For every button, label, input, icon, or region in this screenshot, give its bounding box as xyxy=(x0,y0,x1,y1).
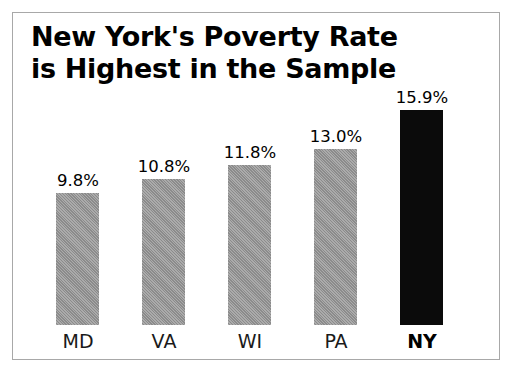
category-label-md: MD xyxy=(35,330,121,352)
bar-value-label-va: 10.8% xyxy=(121,157,207,176)
chart-frame: New York's Poverty Rate is Highest in th… xyxy=(12,12,500,360)
bar-group-pa: 13.0%PA xyxy=(293,149,379,325)
bar-value-label-pa: 13.0% xyxy=(293,127,379,146)
category-label-va: VA xyxy=(121,330,207,352)
bar-value-label-ny: 15.9% xyxy=(379,88,465,107)
bar-wi[interactable] xyxy=(228,165,271,325)
bar-chart-plot-area: 9.8%MD10.8%VA11.8%WI13.0%PA15.9%NY xyxy=(13,13,499,358)
bar-pa[interactable] xyxy=(314,149,357,325)
bar-ny[interactable] xyxy=(400,110,443,325)
bar-value-label-md: 9.8% xyxy=(35,171,121,190)
bar-group-md: 9.8%MD xyxy=(35,193,121,325)
category-label-wi: WI xyxy=(207,330,293,352)
category-label-pa: PA xyxy=(293,330,379,352)
bar-group-va: 10.8%VA xyxy=(121,179,207,325)
bar-md[interactable] xyxy=(56,193,99,325)
bar-va[interactable] xyxy=(142,179,185,325)
bar-group-wi: 11.8%WI xyxy=(207,165,293,325)
bar-value-label-wi: 11.8% xyxy=(207,143,293,162)
category-label-ny: NY xyxy=(379,330,465,352)
bar-group-ny: 15.9%NY xyxy=(379,110,465,325)
